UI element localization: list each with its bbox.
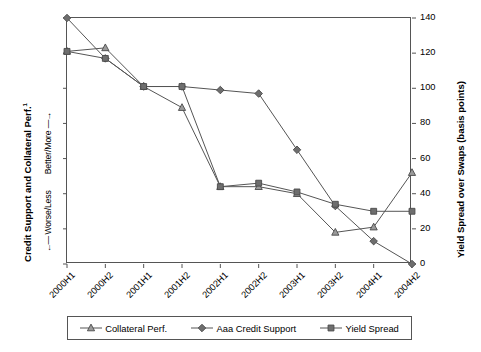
- right-axis-tick-label: 100: [420, 82, 436, 92]
- right-axis-title: Yield Spread over Swaps (basis points): [455, 81, 466, 258]
- data-point-triangle: [178, 104, 185, 111]
- legend-item[interactable]: Collateral Perf.: [80, 322, 167, 334]
- data-point-square: [64, 48, 70, 54]
- data-point-square: [294, 189, 300, 195]
- data-point-square: [141, 84, 147, 90]
- legend-item[interactable]: Yield Spread: [320, 322, 398, 334]
- data-point-diamond: [217, 86, 225, 94]
- series-collateral-perf: [63, 44, 415, 235]
- legend-marker-diamond-icon: [191, 322, 213, 334]
- data-point-square: [371, 208, 377, 214]
- right-axis-tick-label: 40: [420, 188, 430, 198]
- legend-item[interactable]: Aaa Credit Support: [191, 322, 296, 334]
- right-axis-tick-label: 120: [420, 47, 436, 57]
- right-axis-tick-label: 60: [420, 153, 430, 163]
- data-point-square: [102, 55, 108, 61]
- right-axis-tick-label: 80: [420, 117, 430, 127]
- data-point-square: [332, 201, 338, 207]
- legend-marker-triangle-icon: [80, 322, 102, 334]
- series-yield-spread: [64, 48, 415, 214]
- legend-label: Aaa Credit Support: [216, 323, 296, 334]
- series-line: [67, 48, 412, 233]
- legend-label: Collateral Perf.: [105, 323, 167, 334]
- data-point-square: [217, 184, 223, 190]
- data-point-square: [179, 84, 185, 90]
- legend-marker-square-icon: [320, 322, 342, 334]
- data-point-square: [256, 180, 262, 186]
- data-point-diamond: [293, 146, 301, 154]
- plot-area: [66, 17, 411, 263]
- data-point-diamond: [408, 260, 416, 268]
- right-axis-tick-label: 20: [420, 223, 430, 233]
- right-axis-tick-label: 140: [420, 12, 436, 22]
- data-point-triangle: [408, 169, 415, 176]
- chart-legend: Collateral Perf.Aaa Credit SupportYield …: [67, 316, 412, 340]
- series-aaa-credit-support: [63, 14, 416, 268]
- data-point-triangle: [102, 44, 109, 51]
- chart-figure: Credit Support and Collateral Perf.1 ←— …: [0, 0, 481, 352]
- series-line: [67, 51, 412, 211]
- series-line: [67, 18, 412, 264]
- data-point-diamond: [255, 90, 263, 98]
- right-axis-tick-label: 0: [420, 258, 425, 268]
- legend-label: Yield Spread: [345, 323, 398, 334]
- data-point-square: [409, 208, 415, 214]
